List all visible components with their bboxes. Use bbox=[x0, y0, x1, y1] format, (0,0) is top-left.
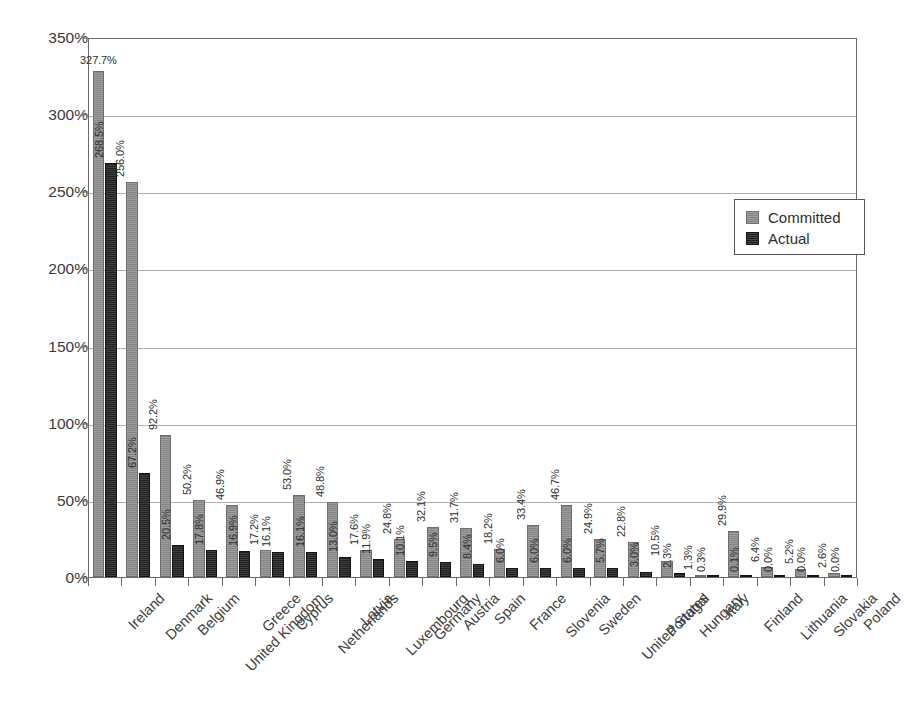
bar-value-label: 24.9% bbox=[582, 503, 594, 534]
x-tick-mark bbox=[422, 578, 423, 586]
x-tick-mark bbox=[857, 578, 858, 586]
bar-actual[interactable]: 20.5% bbox=[172, 545, 184, 577]
bar-actual[interactable]: 16.1% bbox=[306, 552, 318, 577]
bar-value-label: 18.2% bbox=[482, 513, 494, 544]
x-tick-mark bbox=[88, 578, 89, 586]
bar-actual[interactable]: 9.5% bbox=[440, 562, 452, 577]
bar-committed[interactable]: 92.2% bbox=[160, 435, 172, 577]
bar-value-label: 3.0% bbox=[628, 543, 640, 568]
bar-value-label: 48.8% bbox=[314, 466, 326, 497]
bar-value-label: 2.3% bbox=[661, 544, 673, 569]
bar-value-label: 17.2% bbox=[248, 515, 260, 546]
x-tick-mark bbox=[590, 578, 591, 586]
bar-value-label: 5.7% bbox=[594, 539, 606, 564]
x-tick-mark bbox=[188, 578, 189, 586]
bar-actual[interactable]: 11.9% bbox=[373, 559, 385, 577]
x-tick-mark bbox=[456, 578, 457, 586]
bar-actual[interactable]: 6.0% bbox=[506, 568, 518, 577]
x-tick-label: Ireland bbox=[125, 590, 168, 633]
bar-value-label: 17.8% bbox=[193, 514, 205, 545]
bar-value-label: 92.2% bbox=[147, 399, 159, 430]
y-tick-mark bbox=[81, 38, 88, 39]
bar-actual[interactable]: 5.7% bbox=[607, 568, 619, 577]
y-tick-label: 350% bbox=[26, 29, 88, 47]
bar-value-label: 0.0% bbox=[762, 547, 774, 572]
bar-actual[interactable]: 268.5% bbox=[105, 163, 117, 577]
bar-group: 327.7%268.5% bbox=[89, 39, 122, 577]
bar-value-label: 53.0% bbox=[281, 460, 293, 491]
bar-committed[interactable]: 2.6% bbox=[828, 573, 840, 577]
bar-value-label: 0.3% bbox=[695, 547, 707, 572]
bar-group: 6.4%0.0% bbox=[758, 39, 791, 577]
bar-committed[interactable]: 256.0% bbox=[126, 182, 138, 577]
x-tick-mark bbox=[222, 578, 223, 586]
bar-value-label: 46.9% bbox=[214, 469, 226, 500]
y-tick-label: 250% bbox=[26, 183, 88, 201]
bar-value-label: 6.0% bbox=[494, 538, 506, 563]
plot-area: 327.7%268.5%256.0%67.2%92.2%20.5%50.2%17… bbox=[88, 38, 857, 578]
bar-actual[interactable]: 0.0% bbox=[807, 575, 819, 577]
bar-value-label: 327.7% bbox=[80, 54, 117, 66]
bar-value-label: 20.5% bbox=[160, 510, 172, 541]
bar-value-label: 8.4% bbox=[461, 534, 473, 559]
x-tick-mark bbox=[656, 578, 657, 586]
bar-actual[interactable]: 0.0% bbox=[841, 575, 853, 577]
bar-group: 31.7%8.4% bbox=[457, 39, 490, 577]
legend-swatch-committed-icon bbox=[746, 211, 759, 224]
bar-group: 2.6%0.0% bbox=[825, 39, 858, 577]
x-tick-mark bbox=[355, 578, 356, 586]
legend-entry-committed: Committed bbox=[746, 207, 864, 228]
bar-actual[interactable]: 2.3% bbox=[674, 573, 686, 577]
bar-group: 46.7%6.0% bbox=[557, 39, 590, 577]
bar-value-label: 32.1% bbox=[415, 492, 427, 523]
x-tick-mark bbox=[121, 578, 122, 586]
bar-actual[interactable]: 67.2% bbox=[139, 473, 151, 577]
bar-value-label: 33.4% bbox=[515, 490, 527, 521]
y-axis: 0%50%100%150%200%250%300%350% bbox=[0, 0, 88, 721]
bar-value-label: 50.2% bbox=[181, 464, 193, 495]
bar-group: 5.2%0.0% bbox=[791, 39, 824, 577]
y-tick-mark bbox=[81, 346, 88, 347]
bar-actual[interactable]: 8.4% bbox=[473, 564, 485, 577]
x-axis: IrelandDenmarkBelgiumUnited KingdomGreec… bbox=[88, 578, 857, 721]
y-tick-mark bbox=[81, 423, 88, 424]
bar-value-label: 268.5% bbox=[93, 121, 105, 158]
bar-value-label: 29.9% bbox=[716, 495, 728, 526]
x-tick-mark bbox=[623, 578, 624, 586]
bar-value-label: 6.4% bbox=[749, 537, 761, 562]
bar-value-label: 31.7% bbox=[448, 492, 460, 523]
legend-label-actual: Actual bbox=[768, 230, 810, 247]
bar-committed[interactable]: 1.3% bbox=[695, 575, 707, 577]
bar-actual[interactable]: 17.8% bbox=[206, 550, 218, 577]
bar-actual[interactable]: 10.1% bbox=[406, 561, 418, 577]
bar-value-label: 5.2% bbox=[783, 539, 795, 564]
bar-value-label: 0.0% bbox=[795, 547, 807, 572]
bar-committed[interactable]: 17.2% bbox=[260, 550, 272, 577]
bar-actual[interactable]: 16.1% bbox=[272, 552, 284, 577]
y-tick-label: 0% bbox=[26, 569, 88, 587]
x-tick-mark bbox=[155, 578, 156, 586]
bar-actual[interactable]: 3.0% bbox=[640, 572, 652, 577]
x-tick-mark bbox=[790, 578, 791, 586]
bar-actual[interactable]: 6.0% bbox=[540, 568, 552, 577]
bar-actual[interactable]: 0.1% bbox=[740, 575, 752, 577]
bar-group: 29.9%0.1% bbox=[724, 39, 757, 577]
bar-actual[interactable]: 13.0% bbox=[339, 557, 351, 577]
bar-group: 256.0%67.2% bbox=[122, 39, 155, 577]
bar-group: 22.8%3.0% bbox=[624, 39, 657, 577]
bar-value-label: 1.3% bbox=[682, 545, 694, 570]
y-tick-mark bbox=[81, 192, 88, 193]
y-tick-mark bbox=[81, 500, 88, 501]
bar-actual[interactable]: 16.9% bbox=[239, 551, 251, 577]
bar-value-label: 0.1% bbox=[728, 547, 740, 572]
bar-actual[interactable]: 6.0% bbox=[573, 568, 585, 577]
bar-value-label: 22.8% bbox=[615, 506, 627, 537]
bar-group: 24.9%5.7% bbox=[591, 39, 624, 577]
bar-value-label: 10.5% bbox=[649, 525, 661, 556]
x-tick-mark bbox=[489, 578, 490, 586]
x-tick-mark bbox=[690, 578, 691, 586]
bar-value-label: 16.9% bbox=[227, 515, 239, 546]
bar-actual[interactable]: 0.0% bbox=[774, 575, 786, 577]
bar-actual[interactable]: 0.3% bbox=[707, 575, 719, 577]
